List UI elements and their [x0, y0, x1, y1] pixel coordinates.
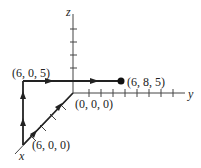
x-axis-label: x [19, 150, 24, 162]
point-dot [118, 78, 125, 85]
point-label-6-0-0: (6, 0, 0) [32, 139, 70, 151]
point-label-origin: (0, 0, 0) [75, 98, 113, 110]
z-axis-label: z [66, 6, 71, 18]
y-axis-label: y [188, 88, 193, 100]
point-label-6-0-5: (6, 0, 5) [12, 67, 50, 79]
point-label-6-8-5: (6, 8, 5) [127, 76, 165, 88]
axes-and-path [0, 0, 201, 168]
x-ticks [30, 104, 66, 141]
arrow-icon [20, 91, 26, 99]
arrow-icon [20, 118, 26, 126]
diagram-canvas: z y x (6, 0, 5) (6, 8, 5) (0, 0, 0) (6, … [0, 0, 201, 168]
arrow-icon [90, 78, 99, 84]
